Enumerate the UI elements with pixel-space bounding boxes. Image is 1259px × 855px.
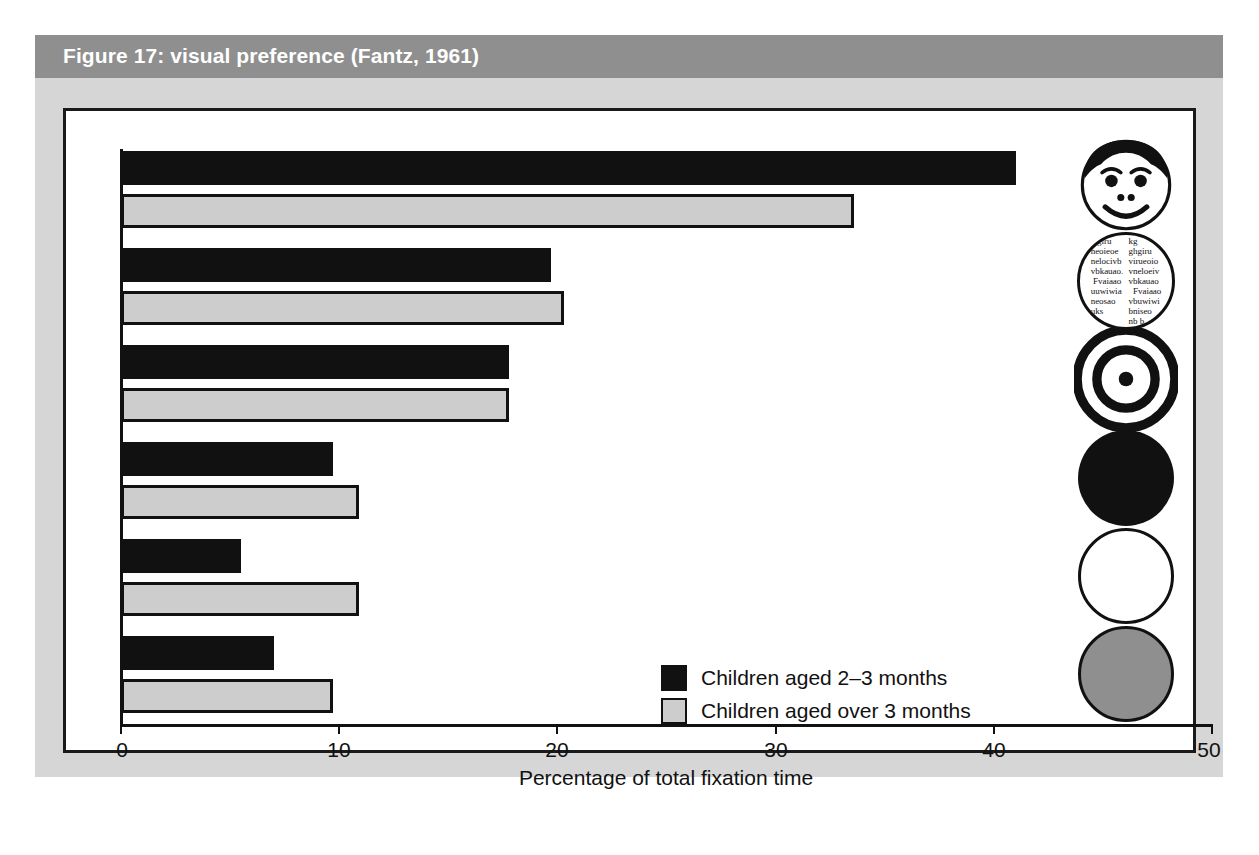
x-tick-label-10: 10 (327, 738, 350, 762)
legend-swatch-dark-icon (661, 665, 687, 691)
print-column-left: algiru neoieoe nelocivb vbkauao. Fvaiaao… (1091, 236, 1124, 326)
legend-item-0: Children aged 2–3 months (661, 661, 971, 694)
black-circle-icon (1074, 426, 1178, 530)
bar-light-bullseye (121, 388, 509, 422)
print-columns: algiru neoieoe nelocivb vbkauao. Fvaiaao… (1091, 236, 1162, 326)
bar-dark-black-circle (121, 442, 333, 476)
gray-circle-icon (1074, 622, 1178, 726)
x-tick-label-30: 30 (764, 738, 787, 762)
bar-light-white-circle (121, 582, 359, 616)
white-circle-icon (1074, 524, 1178, 628)
x-tick-0 (120, 724, 122, 734)
bar-dark-gray-circle (121, 636, 274, 670)
bar-dark-white-circle (121, 539, 241, 573)
bar-light-face (121, 194, 854, 228)
legend-label-1: Children aged over 3 months (701, 699, 971, 723)
plot-frame: 0 10 20 30 40 50 Percentage of total fix… (63, 108, 1196, 753)
x-tick-10 (338, 724, 340, 734)
bar-light-gray-circle (121, 679, 333, 713)
print-column-right: kg ghgiru virueoio vneloeiv vbkauao Fvai… (1128, 236, 1161, 326)
bullseye-icon (1074, 327, 1178, 431)
figure-panel: Figure 17: visual preference (Fantz, 196… (35, 35, 1223, 777)
x-tick-40 (993, 724, 995, 734)
x-tick-label-40: 40 (982, 738, 1005, 762)
legend-swatch-light-icon (661, 698, 687, 724)
black-disc (1078, 430, 1174, 526)
x-tick-label-0: 0 (116, 738, 128, 762)
print-disc: algiru neoieoe nelocivb vbkauao. Fvaiaao… (1077, 232, 1175, 330)
bar-light-black-circle (121, 485, 359, 519)
face-icon (1074, 131, 1178, 235)
stimulus-column: algiru neoieoe nelocivb vbkauao. Fvaiaao… (1066, 131, 1191, 721)
white-disc (1078, 528, 1174, 624)
x-tick-50 (1211, 724, 1213, 734)
bar-light-print (121, 291, 564, 325)
figure-title: Figure 17: visual preference (Fantz, 196… (63, 44, 479, 68)
bar-dark-bullseye (121, 345, 509, 379)
bar-dark-face (121, 151, 1016, 185)
figure-title-bar: Figure 17: visual preference (Fantz, 196… (35, 35, 1223, 78)
x-tick-label-50: 50 (1197, 738, 1220, 762)
legend-label-0: Children aged 2–3 months (701, 666, 947, 690)
x-tick-20 (556, 724, 558, 734)
bar-dark-print (121, 248, 551, 282)
print-icon: algiru neoieoe nelocivb vbkauao. Fvaiaao… (1074, 229, 1178, 333)
page-root: Figure 17: visual preference (Fantz, 196… (0, 0, 1259, 855)
plot-area: 0 10 20 30 40 50 Percentage of total fix… (66, 111, 1193, 750)
x-tick-label-20: 20 (545, 738, 568, 762)
legend-item-1: Children aged over 3 months (661, 694, 971, 727)
gray-disc (1078, 626, 1174, 722)
x-axis-title: Percentage of total fixation time (120, 766, 1212, 790)
chart-legend: Children aged 2–3 months Children aged o… (661, 661, 971, 727)
